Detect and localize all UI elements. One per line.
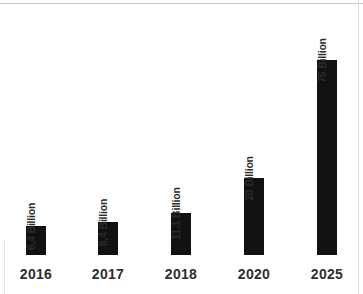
plot-area: 6,4 Billion 2016 8,4 Billion 2017 11,1 B… (0, 0, 363, 294)
bar-chart: 6,4 Billion 2016 8,4 Billion 2017 11,1 B… (0, 0, 363, 294)
bar-group-2017: 8,4 Billion 2017 (72, 0, 144, 294)
bar-value-label-2018: 11,1 Billion (171, 187, 182, 239)
bar-value-label-2025: 75 Billion (317, 38, 328, 83)
bar-value-label-2020: 20 Billion (244, 156, 255, 201)
category-label-2016: 2016 (0, 266, 72, 282)
bar-group-2018: 11,1 Billion 2018 (145, 0, 217, 294)
bar-value-label-2016: 6,4 Billion (26, 202, 37, 249)
category-label-2025: 2025 (291, 266, 363, 282)
bar-group-2016: 6,4 Billion 2016 (0, 0, 72, 294)
category-label-2020: 2020 (218, 266, 290, 282)
category-label-2017: 2017 (72, 266, 144, 282)
bar-group-2025: 75 Billion 2025 (291, 0, 363, 294)
category-label-2018: 2018 (145, 266, 217, 282)
bar-value-label-2017: 8,4 Billion (98, 198, 109, 245)
bar-2025[interactable] (317, 60, 337, 255)
bar-group-2020: 20 Billion 2020 (218, 0, 290, 294)
